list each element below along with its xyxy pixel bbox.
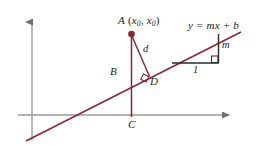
point-A-label: A (x0, x0): [118, 15, 160, 27]
right-angle-marker-at-D: [141, 74, 149, 82]
point-D-label: D: [150, 76, 158, 87]
line-equation-label: y = mx + b: [188, 20, 239, 31]
point-A-marker: [128, 31, 135, 38]
point-A-letter: A: [118, 14, 125, 26]
segment-AD-distance: [132, 35, 150, 77]
geometry-figure: A (x0, x0) y = mx + b d B D C m 1: [0, 0, 266, 147]
slope-rise-label: m: [222, 40, 230, 51]
slope-run-label: 1: [193, 65, 198, 76]
point-B-label: B: [110, 66, 117, 77]
distance-label: d: [143, 44, 148, 55]
point-C-label: C: [128, 119, 136, 130]
coord-paren-close: ): [156, 14, 160, 26]
right-angle-marker-slope-triangle: [212, 56, 219, 63]
